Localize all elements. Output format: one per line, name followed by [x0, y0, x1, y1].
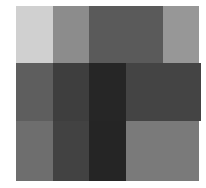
heatmap-cell [53, 121, 89, 181]
heatmap-cell [163, 121, 199, 181]
heatmap-cell [126, 121, 163, 181]
heatmap-cell [89, 121, 126, 181]
heatmap-cell [89, 6, 126, 63]
heatmap-cell [126, 63, 163, 121]
heatmap-cell [89, 63, 126, 121]
heatmap-row [16, 63, 201, 121]
heatmap-grid [16, 6, 200, 181]
heatmap-cell [163, 6, 199, 63]
heatmap-cell [53, 6, 89, 63]
heatmap-row [16, 6, 199, 63]
heatmap-cell [16, 6, 53, 63]
heatmap-row [16, 121, 199, 181]
heatmap-cell [16, 63, 53, 121]
heatmap-cell [126, 6, 163, 63]
heatmap-cell [16, 121, 53, 181]
heatmap-cell [53, 63, 89, 121]
heatmap-cell [163, 63, 201, 121]
